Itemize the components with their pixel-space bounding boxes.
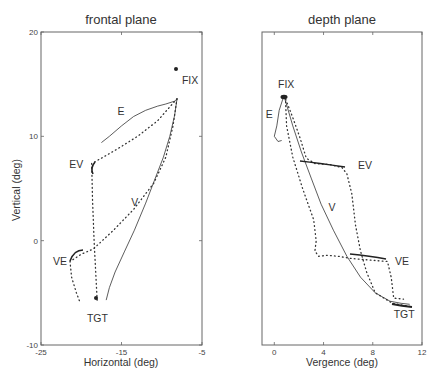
figure: frontal plane -25-15-5-1001020 FIXEEVVVE… — [0, 0, 437, 380]
annotation-fix: FIX — [278, 78, 294, 90]
trace-line — [101, 99, 177, 143]
tgt-marker — [94, 296, 98, 300]
x-tick-label: 0 — [272, 348, 277, 357]
depth-plane-title: depth plane — [308, 12, 376, 27]
frontal-plane-xlabel: Horizontal (deg) — [84, 356, 159, 368]
annotation-fix: FIX — [182, 74, 198, 86]
x-tick-label: -5 — [198, 348, 206, 357]
y-tick-label: -10 — [26, 341, 38, 350]
depth-plane-panel: depth plane 04812 FIXEEVVVETGT Vergence … — [262, 12, 427, 368]
annotation-ev: EV — [358, 159, 372, 171]
annotation-e: E — [117, 105, 124, 117]
trace-line — [274, 99, 283, 142]
annotation-tgt: TGT — [394, 308, 416, 320]
frontal-plane-ticks: -25-15-5-1001020 — [26, 28, 206, 357]
fix-marker — [281, 95, 288, 99]
depth-plane-xlabel: Vergence (deg) — [306, 356, 378, 368]
depth-plane-series — [274, 95, 412, 307]
depth-plane-annotations: FIXEEVVVETGT — [266, 78, 416, 320]
frontal-plane-annotations: FIXEEVVVETGT — [53, 74, 198, 324]
trace-line — [284, 96, 410, 307]
y-tick-label: 20 — [29, 28, 38, 37]
trace-line — [285, 98, 403, 299]
y-tick-label: 0 — [34, 237, 39, 246]
frontal-plane-frame — [41, 32, 202, 345]
ve-segment — [70, 250, 83, 261]
annotation-v: V — [328, 201, 335, 213]
x-tick-label: 12 — [418, 348, 427, 357]
frontal-plane-panel: frontal plane -25-15-5-1001020 FIXEEVVVE… — [10, 12, 206, 368]
trace-line — [70, 99, 177, 303]
frontal-plane-title: frontal plane — [85, 12, 157, 27]
frontal-plane-series — [70, 67, 178, 303]
trace-line — [284, 97, 410, 305]
fix-marker — [174, 67, 178, 71]
y-tick-label: 10 — [29, 132, 38, 141]
annotation-tgt: TGT — [87, 312, 109, 324]
annotation-ve: VE — [53, 255, 67, 267]
annotation-v: V — [131, 196, 138, 208]
annotation-ev: EV — [69, 158, 83, 170]
frontal-plane-ylabel: Vertical (deg) — [10, 159, 22, 221]
annotation-e: E — [266, 108, 273, 120]
annotation-ve: VE — [395, 255, 409, 267]
